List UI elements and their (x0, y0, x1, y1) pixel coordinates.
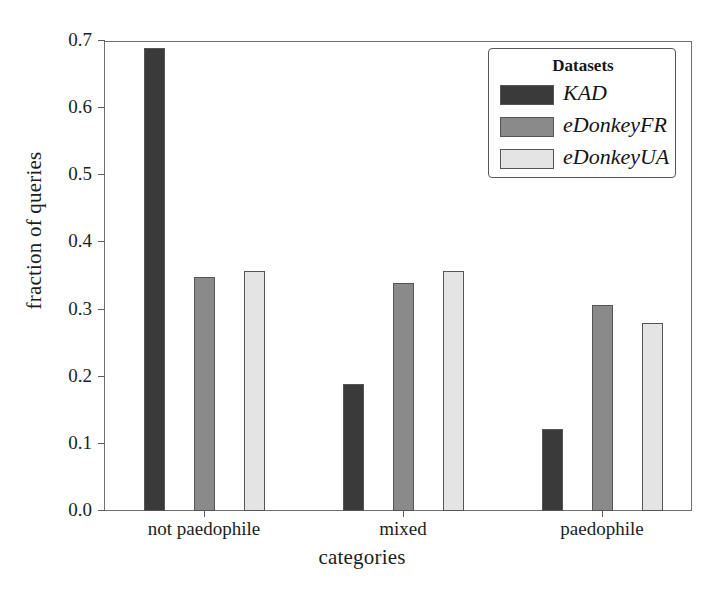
y-tick-mark (98, 174, 105, 175)
y-tick-label: 0.4 (36, 230, 92, 252)
bar (244, 271, 265, 511)
x-tick-mark (403, 510, 404, 517)
bar (144, 48, 165, 511)
y-tick-mark (98, 443, 105, 444)
legend-swatch (500, 117, 554, 137)
y-tick-mark (98, 510, 105, 511)
y-tick-mark (98, 376, 105, 377)
legend-entry: eDonkeyUA (489, 145, 677, 175)
bar (542, 429, 563, 511)
legend-entry: KAD (489, 81, 677, 111)
bar (642, 323, 663, 511)
x-tick-mark (602, 510, 603, 517)
y-tick-label: 0.2 (36, 365, 92, 387)
y-tick-label: 0.1 (36, 432, 92, 454)
x-axis-label: categories (0, 545, 724, 570)
bar (194, 277, 215, 511)
legend-label: eDonkeyUA (563, 144, 669, 170)
y-tick-label: 0.7 (36, 29, 92, 51)
legend-title: Datasets (489, 56, 677, 76)
x-tick-label: paedophile (472, 518, 724, 540)
bar (343, 384, 364, 511)
bar (393, 283, 414, 511)
y-tick-label: 0.3 (36, 298, 92, 320)
y-tick-label: 0.5 (36, 163, 92, 185)
bar (443, 271, 464, 511)
x-tick-mark (204, 510, 205, 517)
legend-swatch (500, 85, 554, 105)
y-tick-mark (98, 241, 105, 242)
legend-label: KAD (563, 80, 607, 106)
legend-label: eDonkeyFR (563, 112, 667, 138)
y-tick-mark (98, 40, 105, 41)
y-tick-mark (98, 107, 105, 108)
legend-swatch (500, 149, 554, 169)
legend-entry: eDonkeyFR (489, 113, 677, 143)
y-tick-mark (98, 309, 105, 310)
bar (592, 305, 613, 511)
legend-box: Datasets KADeDonkeyFReDonkeyUA (488, 48, 676, 178)
bar-chart-figure: fraction of queries 0.00.10.20.30.40.50.… (0, 0, 724, 595)
y-tick-label: 0.6 (36, 96, 92, 118)
